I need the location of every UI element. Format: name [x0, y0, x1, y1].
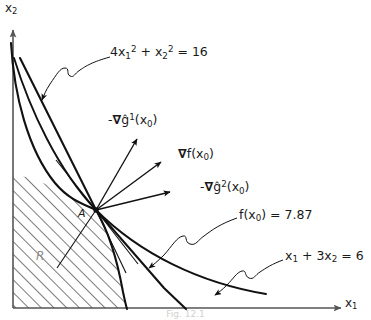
gradient-f-arrow — [96, 162, 161, 210]
objective-contour-label: f(x0) = 7.87 — [239, 209, 312, 223]
negative-gradient-g2-label: -∇ĝ2(x0) — [200, 180, 250, 196]
axis-label-x1: x1 — [345, 297, 357, 311]
gradient-f-label: ∇f(x0) — [178, 148, 214, 162]
negative-gradient-g1-arrow — [96, 139, 137, 210]
vertex-point-a-label: A — [78, 208, 86, 219]
feasible-region-label: R — [36, 250, 44, 262]
linear-constraint-label: x1 + 3x2 = 6 — [285, 250, 364, 264]
ellipse-label-leader — [42, 57, 110, 100]
vertex-point-a-marker — [93, 207, 98, 212]
gradient-arrows-group — [96, 139, 170, 210]
figure-canvas: x2 x1 4x12 + x22 = 16 -∇ĝ1(x0) ∇f(x0) -∇… — [0, 0, 371, 320]
negative-gradient-g1-label: -∇ĝ1(x0) — [108, 113, 158, 129]
figure-caption: Fig. 12.1 — [0, 310, 371, 319]
feasible-region-hatching — [0, 150, 160, 320]
objective-label-leader — [149, 218, 237, 268]
axis-label-x2: x2 — [5, 2, 17, 16]
linear-label-leader — [215, 260, 283, 295]
ellipse-constraint-label: 4x12 + x22 = 16 — [110, 45, 208, 61]
